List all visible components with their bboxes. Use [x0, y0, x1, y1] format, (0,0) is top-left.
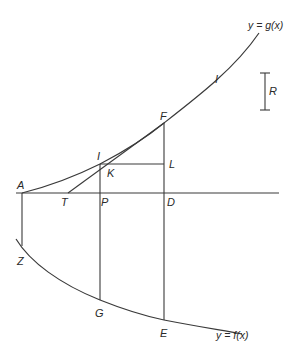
- point-label-A: A: [17, 180, 24, 191]
- scale-bar-label-R: R: [269, 86, 277, 97]
- curve-f-label: y = f(x): [216, 330, 248, 341]
- point-label-E: E: [160, 328, 167, 339]
- geometry-diagram: [0, 0, 299, 355]
- point-label-K: K: [107, 168, 114, 179]
- point-label-Z: Z: [17, 256, 24, 267]
- point-label-L: L: [169, 159, 175, 170]
- point-label-G: G: [95, 308, 104, 319]
- curve-g-label: y = g(x): [248, 20, 283, 31]
- point-label-D: D: [167, 197, 175, 208]
- curve-f: [16, 239, 242, 334]
- curve-g: [22, 33, 259, 193]
- point-label-P: P: [101, 197, 108, 208]
- point-label-F: F: [160, 111, 167, 122]
- point-label-T: T: [61, 197, 68, 208]
- point-label-I-upper: I: [215, 74, 218, 85]
- tangent-line-TF: [68, 123, 164, 193]
- point-label-I: I: [97, 151, 100, 162]
